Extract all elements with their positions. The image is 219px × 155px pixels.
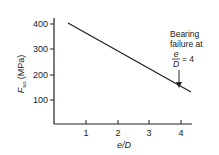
y-tick-200: 200 xyxy=(33,70,48,80)
y-ticks: 400 300 200 100 xyxy=(33,19,54,105)
x-tick-2: 2 xyxy=(115,128,120,138)
y-axis-label: Fso(MPa) xyxy=(16,55,27,93)
x-tick-1: 1 xyxy=(83,128,88,138)
svg-text:Bearing: Bearing xyxy=(170,29,200,39)
x-axis-label: e/D xyxy=(117,140,132,150)
y-tick-300: 300 xyxy=(33,44,48,54)
svg-text:D: D xyxy=(173,59,179,69)
svg-text:failure at: failure at xyxy=(170,39,203,49)
svg-text:e: e xyxy=(174,49,179,59)
x-ticks: 1 2 3 4 xyxy=(83,120,183,138)
x-tick-4: 4 xyxy=(178,128,183,138)
bearing-failure-annotation: Bearing failure at e D = 4 xyxy=(170,29,203,88)
svg-text:Fso(MPa): Fso(MPa) xyxy=(16,55,27,93)
y-tick-400: 400 xyxy=(33,19,48,29)
chart: 400 300 200 100 1 2 3 4 e/D Fso(MPa) Bea… xyxy=(0,0,219,155)
x-tick-3: 3 xyxy=(146,128,151,138)
y-tick-100: 100 xyxy=(33,95,48,105)
svg-text:= 4: = 4 xyxy=(182,54,194,64)
